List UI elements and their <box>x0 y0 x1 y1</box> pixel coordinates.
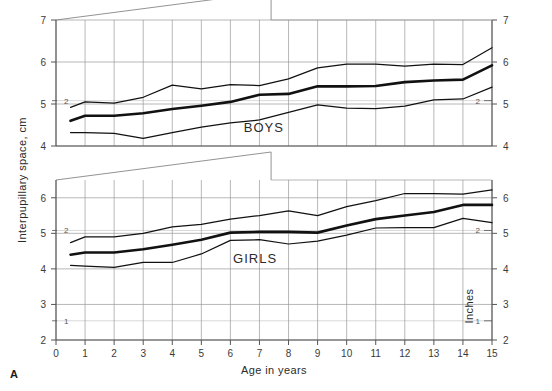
chart-svg: 4567456722BOYS23456234561122GIRLS0123456… <box>0 0 552 391</box>
y-tick-label-right-cm: 6 <box>503 57 509 68</box>
y-tick-label-left-cm: 5 <box>40 99 46 110</box>
figure-letter: A <box>10 368 18 380</box>
x-tick-label: 8 <box>286 348 292 359</box>
y-tick-label-right-cm: 4 <box>503 141 509 152</box>
y-tick-label-left-inches: 1 <box>64 317 69 326</box>
top-edge-skew-girls <box>56 152 271 180</box>
x-tick-label: 6 <box>228 348 234 359</box>
y-tick-label-left-cm: 2 <box>40 335 46 346</box>
curve-boys-upper <box>71 48 492 108</box>
y-tick-label-right-cm: 3 <box>503 299 509 310</box>
y-tick-label-right-cm: 4 <box>503 264 509 275</box>
y-tick-label-left-cm: 6 <box>40 193 46 204</box>
y-tick-label-right-cm: 7 <box>503 15 509 26</box>
panel-label-girls: GIRLS <box>233 251 277 266</box>
y-tick-label-right-inches: 2 <box>476 226 481 235</box>
x-tick-label: 7 <box>257 348 263 359</box>
curve-boys-mean <box>71 65 492 120</box>
x-tick-label: 14 <box>457 348 469 359</box>
y-tick-label-left-cm: 7 <box>40 15 46 26</box>
x-tick-label: 0 <box>53 348 59 359</box>
x-tick-label: 5 <box>199 348 205 359</box>
x-tick-label: 1 <box>82 348 88 359</box>
panel-label-boys: BOYS <box>244 120 284 135</box>
figure-interpupillary-space-chart: 4567456722BOYS23456234561122GIRLS0123456… <box>0 0 552 391</box>
x-tick-label: 12 <box>399 348 411 359</box>
y-axis-title-left: Interpupillary space, cm <box>16 117 28 243</box>
y-tick-label-right-inches: 2 <box>476 97 481 106</box>
y-tick-label-left-inches: 2 <box>64 97 69 106</box>
y-tick-label-left-cm: 4 <box>40 264 46 275</box>
x-axis-title: Age in years <box>241 364 307 376</box>
top-edge-skew-boys <box>56 0 271 20</box>
y-tick-label-right-cm: 5 <box>503 228 509 239</box>
x-tick-label: 3 <box>140 348 146 359</box>
x-tick-label: 10 <box>341 348 353 359</box>
x-tick-label: 11 <box>371 348 382 359</box>
y-tick-label-left-cm: 4 <box>40 141 46 152</box>
x-tick-label: 15 <box>486 348 498 359</box>
y-tick-label-left-inches: 2 <box>64 226 69 235</box>
curve-girls-lower <box>71 218 492 267</box>
y-tick-label-right-cm: 6 <box>503 193 509 204</box>
x-tick-label: 2 <box>111 348 117 359</box>
x-tick-label: 13 <box>428 348 440 359</box>
y-tick-label-right-cm: 2 <box>503 335 509 346</box>
y-tick-label-right-cm: 5 <box>503 99 509 110</box>
y-tick-label-left-cm: 5 <box>40 228 46 239</box>
y-tick-label-left-cm: 3 <box>40 299 46 310</box>
y-axis-title-right: Inches <box>463 288 475 323</box>
x-tick-label: 4 <box>169 348 175 359</box>
x-tick-label: 9 <box>315 348 321 359</box>
y-tick-label-right-inches: 1 <box>476 317 481 326</box>
y-tick-label-left-cm: 6 <box>40 57 46 68</box>
